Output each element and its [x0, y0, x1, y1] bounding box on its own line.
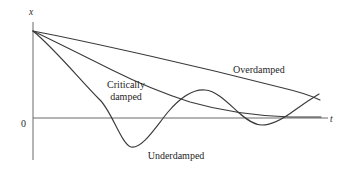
- damping-response-chart: x t 0 Overdamped Critically damped Under…: [0, 0, 349, 170]
- t-axis-label: t: [330, 114, 333, 124]
- underdamped-label: Underdamped: [148, 150, 205, 161]
- origin-label: 0: [21, 118, 26, 129]
- underdamped-curve: [33, 31, 319, 147]
- overdamped-label: Overdamped: [233, 64, 285, 75]
- critically-damped-label-line2: damped: [110, 91, 142, 102]
- critically-damped-label-line1: Critically: [107, 79, 145, 90]
- y-axis-label: x: [28, 7, 34, 17]
- figure-container: x t 0 Overdamped Critically damped Under…: [0, 0, 349, 170]
